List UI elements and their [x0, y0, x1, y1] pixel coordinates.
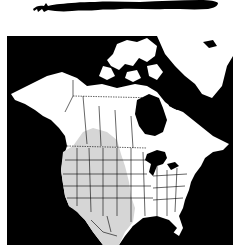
range-map-figure: Range	[0, 0, 239, 245]
north-america-map	[7, 36, 233, 245]
lizard-silhouette-icon	[0, 0, 239, 20]
map-panel	[7, 36, 233, 245]
